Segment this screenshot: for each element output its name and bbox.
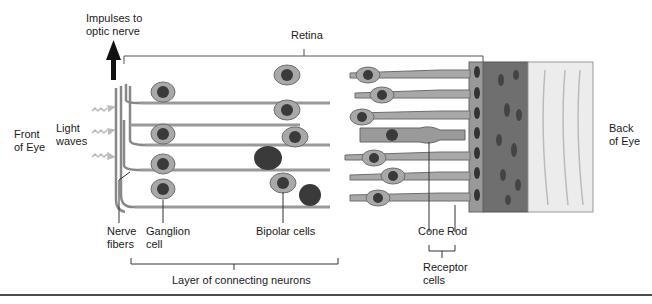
retina-diagram	[0, 0, 652, 304]
cone-cell	[360, 127, 465, 143]
label-back-of-eye: Backof Eye	[609, 122, 640, 148]
label-impulses: Impulses tooptic nerve	[86, 12, 142, 38]
ganglion-cells	[151, 82, 175, 199]
label-bipolar-cells: Bipolar cells	[256, 225, 315, 238]
label-rod: Rod	[447, 225, 467, 238]
label-ganglion-cell: Ganglioncell	[146, 225, 190, 251]
label-nerve-fibers: Nervefibers	[107, 225, 136, 251]
choroid-layer	[528, 62, 593, 212]
label-cone: Cone	[418, 225, 444, 238]
impulse-arrow-icon	[106, 40, 121, 80]
label-receptor-cells: Receptorcells	[423, 261, 468, 287]
light-wave-arrows-icon	[92, 106, 114, 159]
retina-bracket	[124, 49, 483, 64]
receptor-column	[469, 62, 483, 212]
pigment-layer	[483, 62, 528, 212]
label-front-of-eye: Frontof Eye	[14, 128, 45, 154]
label-connecting-neurons: Layer of connecting neurons	[172, 274, 311, 287]
label-light-waves: Lightwaves	[56, 122, 87, 148]
label-retina: Retina	[291, 29, 323, 42]
